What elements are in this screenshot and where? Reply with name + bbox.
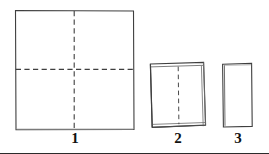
figure-2-half-folded-sheet — [150, 62, 205, 127]
figure-2-outline — [150, 62, 205, 127]
figure-1-unfolded-square — [16, 11, 135, 130]
figure-1-number-label: 1 — [63, 131, 87, 146]
figure-3-left-spine — [224, 65, 225, 126]
figure-2-number-label: 2 — [166, 131, 190, 146]
paper-folding-diagram: 1 2 3 — [0, 0, 269, 154]
figure-3-outline — [223, 63, 253, 127]
figure-1-outline — [16, 11, 135, 130]
figure-3-quarter-folded-sheet — [223, 63, 253, 127]
figure-3-number-label: 3 — [226, 131, 250, 146]
